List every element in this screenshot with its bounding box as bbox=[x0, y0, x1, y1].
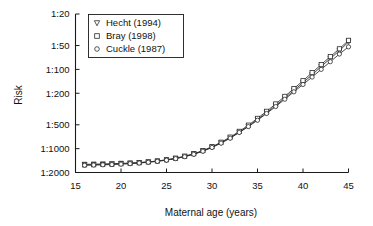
data-point-marker bbox=[337, 47, 341, 51]
data-point-marker bbox=[119, 162, 123, 166]
x-axis-tick-group: 15202530354045 bbox=[70, 169, 354, 191]
legend-circle-icon bbox=[95, 47, 100, 52]
data-point-marker bbox=[219, 141, 223, 145]
data-point-marker bbox=[228, 136, 232, 140]
data-point-marker bbox=[183, 155, 187, 159]
legend-label: Cuckle (1987) bbox=[106, 43, 165, 54]
x-axis-tick-label: 20 bbox=[116, 180, 127, 191]
data-point-marker bbox=[201, 149, 205, 153]
y-axis-tick-group: 1:201:501:1001:2001:5001:10001:2000 bbox=[40, 8, 79, 178]
legend: Hecht (1994)Bray (1998)Cuckle (1987) bbox=[89, 15, 184, 58]
y-axis-tick-label: 1:500 bbox=[46, 119, 70, 130]
data-point-marker bbox=[301, 82, 305, 86]
series-triangle-down bbox=[82, 40, 351, 167]
data-point-marker bbox=[110, 162, 114, 166]
series-circle bbox=[83, 45, 351, 168]
data-point-marker bbox=[328, 55, 332, 59]
data-point-marker bbox=[319, 67, 323, 71]
data-point-marker bbox=[283, 97, 287, 101]
data-point-marker bbox=[155, 159, 159, 163]
x-axis-tick-label: 45 bbox=[343, 180, 354, 191]
y-axis-tick-label: 1:1000 bbox=[40, 143, 69, 154]
data-point-marker bbox=[310, 71, 314, 75]
x-axis-tick-label: 15 bbox=[70, 180, 81, 191]
y-axis-tick-label: 1:50 bbox=[51, 40, 70, 51]
y-axis-tick-label: 1:200 bbox=[46, 88, 70, 99]
x-axis-tick-label: 40 bbox=[298, 180, 309, 191]
data-point-marker bbox=[101, 163, 105, 167]
data-point-marker bbox=[83, 163, 87, 167]
data-point-marker bbox=[92, 163, 96, 167]
series-line bbox=[85, 40, 349, 164]
series-line bbox=[85, 42, 349, 164]
data-point-marker bbox=[137, 161, 141, 165]
data-point-marker bbox=[174, 157, 178, 161]
risk-vs-maternal-age-chart: 1:201:501:1001:2001:5001:10001:2000 1520… bbox=[0, 0, 373, 226]
legend-square-icon bbox=[95, 34, 100, 39]
data-point-marker bbox=[346, 38, 350, 42]
x-axis-tick-label: 35 bbox=[252, 180, 263, 191]
data-point-marker bbox=[328, 60, 332, 64]
data-point-marker bbox=[164, 158, 168, 162]
data-point-marker bbox=[246, 124, 250, 128]
plot-area: 1:201:501:1001:2001:5001:10001:2000 1520… bbox=[0, 0, 373, 226]
x-axis-title: Maternal age (years) bbox=[165, 207, 257, 218]
data-point-marker bbox=[319, 63, 323, 67]
y-axis-tick-label: 1:2000 bbox=[40, 167, 69, 178]
legend-label: Hecht (1994) bbox=[106, 17, 161, 28]
data-point-marker bbox=[292, 90, 296, 94]
y-axis-title: Risk bbox=[13, 84, 24, 104]
y-axis-tick-label: 1:100 bbox=[46, 64, 70, 75]
x-axis-tick-label: 25 bbox=[161, 180, 172, 191]
y-axis-tick-label: 1:20 bbox=[51, 8, 70, 19]
data-point-marker bbox=[337, 52, 341, 56]
x-axis-tick-label: 30 bbox=[207, 180, 218, 191]
data-point-marker bbox=[274, 104, 278, 108]
data-point-marker bbox=[128, 162, 132, 166]
data-point-marker bbox=[210, 145, 214, 149]
data-point-marker bbox=[265, 111, 269, 115]
data-point-marker bbox=[192, 152, 196, 156]
data-point-marker bbox=[310, 75, 314, 79]
data-point-marker bbox=[146, 160, 150, 164]
legend-label: Bray (1998) bbox=[106, 30, 156, 41]
data-point-marker bbox=[237, 130, 241, 134]
series-line bbox=[85, 47, 349, 165]
data-point-marker bbox=[346, 45, 350, 49]
data-point-marker bbox=[255, 118, 259, 122]
